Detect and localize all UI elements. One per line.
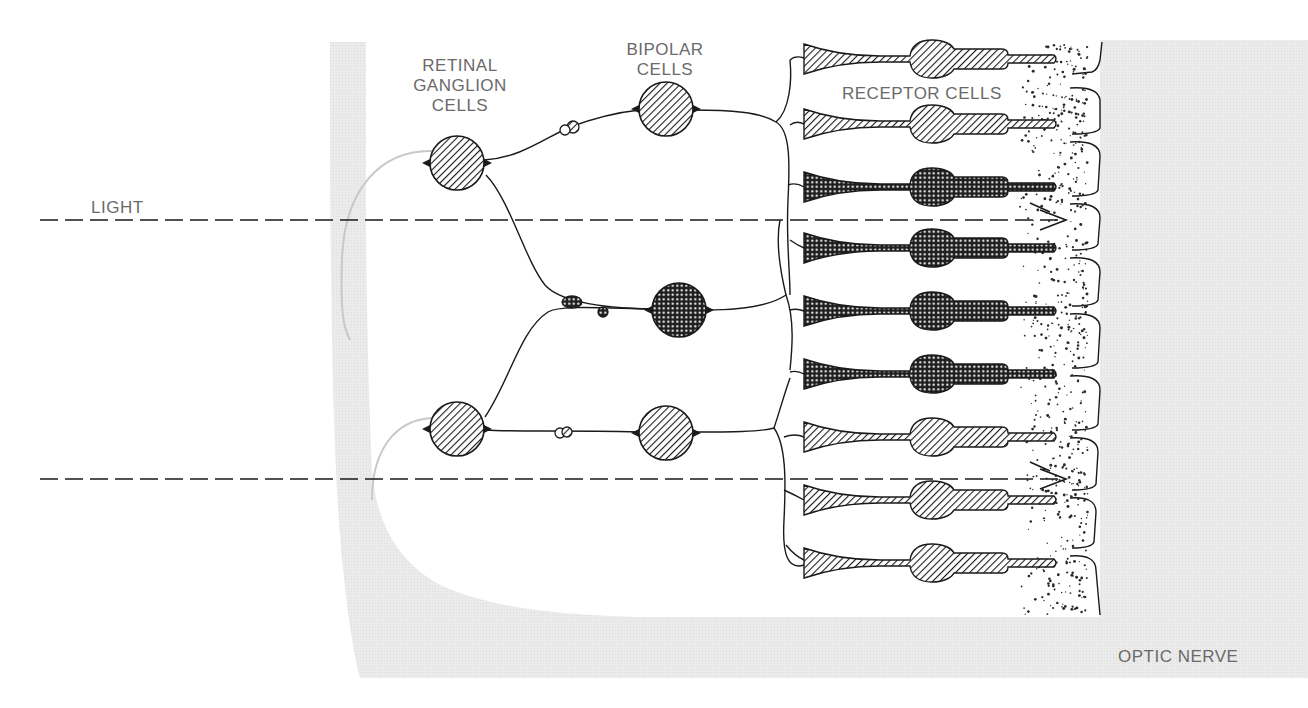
synapses — [555, 121, 608, 438]
label-ganglion-line1: RETINAL — [400, 56, 520, 76]
receptor-cell — [804, 40, 1056, 78]
label-ganglion-line3: CELLS — [400, 96, 520, 116]
label-retinal-ganglion-cells: RETINAL GANGLION CELLS — [400, 56, 520, 116]
label-bipolar-line2: CELLS — [610, 60, 720, 80]
retina-diagram: RETINAL GANGLION CELLS BIPOLAR CELLS REC… — [0, 0, 1308, 708]
label-bipolar-cells: BIPOLAR CELLS — [610, 40, 720, 80]
pigment-granules — [1019, 44, 1089, 615]
receptor-cell — [804, 481, 1056, 519]
bipolar-cell — [644, 283, 714, 337]
receptor-cell — [804, 418, 1056, 456]
receptor-cell — [804, 168, 1056, 206]
receptor-cell — [804, 105, 1056, 143]
label-bipolar-line1: BIPOLAR — [610, 40, 720, 60]
receptor-cell — [804, 292, 1056, 330]
pigment-epithelium — [1070, 42, 1102, 615]
bipolar-cell — [631, 82, 701, 136]
neural-connections — [484, 57, 804, 566]
receptor-cell — [804, 229, 1056, 267]
receptor-cells — [804, 40, 1056, 582]
label-light: LIGHT — [91, 198, 171, 218]
label-ganglion-line2: GANGLION — [400, 76, 520, 96]
ganglion-cells — [422, 136, 492, 456]
label-receptor-cells: RECEPTOR CELLS — [842, 84, 1042, 104]
receptor-cell — [804, 355, 1056, 393]
retina-diagram-art — [0, 0, 1308, 708]
ganglion-cell — [422, 402, 492, 456]
bipolar-cells — [631, 82, 714, 460]
tissue-shading — [330, 40, 1308, 678]
bipolar-cell — [631, 406, 701, 460]
ganglion-cell — [422, 136, 492, 190]
receptor-cell — [804, 544, 1056, 582]
label-optic-nerve: OPTIC NERVE — [1118, 647, 1268, 667]
